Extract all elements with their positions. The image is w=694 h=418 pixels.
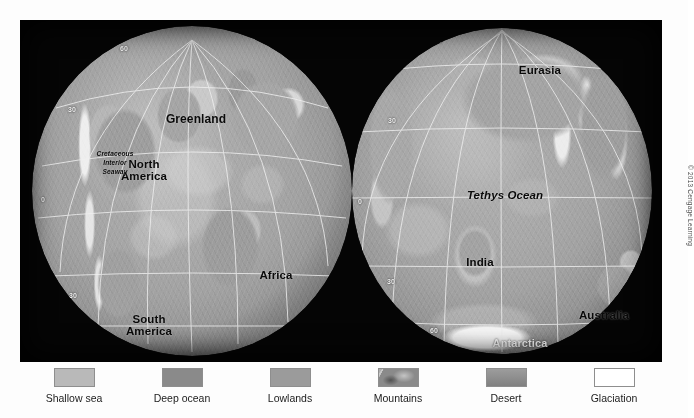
legend: Shallow sea Deep ocean Lowlands Mountain… <box>20 368 668 412</box>
label-cretaceous-interior-seaway-line1: Cretaceous <box>97 150 134 157</box>
legend-label-deep-ocean: Deep ocean <box>154 392 211 404</box>
legend-label-mountains: Mountains <box>374 392 422 404</box>
label-south-america-line1: South <box>132 313 165 325</box>
graticule-tick-30-north-left: 30 <box>68 106 76 113</box>
legend-swatch-shallow-sea <box>54 368 95 387</box>
legend-swatch-desert <box>486 368 527 387</box>
label-australia: Australia <box>579 309 629 321</box>
label-tethys-ocean: Tethys Ocean <box>467 189 543 201</box>
graticule-tick-30-south-left: 30 <box>69 292 77 299</box>
legend-item-mountains: Mountains <box>344 368 452 404</box>
legend-item-deep-ocean: Deep ocean <box>128 368 236 404</box>
label-india: India <box>466 256 493 268</box>
label-north-america-line2: America <box>121 170 167 182</box>
map-panel: 60 30 0 30 Greenland North America Creta… <box>20 20 662 362</box>
label-antarctica: Antarctica <box>493 338 548 350</box>
legend-label-shallow-sea: Shallow sea <box>46 392 103 404</box>
graticule-tick-0-right: 0 <box>358 198 362 205</box>
label-cretaceous-interior-seaway-line2: Interior <box>103 159 127 166</box>
graticule-tick-60-north-right: 60 <box>434 37 442 44</box>
graticule-tick-60-left: 60 <box>120 45 128 52</box>
legend-swatch-mountains <box>378 368 419 387</box>
legend-label-glaciation: Glaciation <box>591 392 638 404</box>
legend-item-desert: Desert <box>452 368 560 404</box>
label-south-america-line2: America <box>126 325 172 337</box>
graticule-tick-30-north-right: 30 <box>388 117 396 124</box>
legend-label-lowlands: Lowlands <box>268 392 312 404</box>
graticule-tick-30-south-right: 30 <box>387 278 395 285</box>
label-cretaceous-interior-seaway-line3: Seaway <box>103 168 128 175</box>
graticule-tick-60-south-right: 60 <box>430 327 438 334</box>
label-africa: Africa <box>259 269 292 281</box>
legend-label-desert: Desert <box>491 392 522 404</box>
globe-western-hemisphere: 60 30 0 30 <box>32 26 352 356</box>
label-greenland: Greenland <box>166 113 226 126</box>
legend-swatch-glaciation <box>594 368 635 387</box>
legend-item-lowlands: Lowlands <box>236 368 344 404</box>
legend-swatch-deep-ocean <box>162 368 203 387</box>
label-eurasia: Eurasia <box>519 64 561 76</box>
copyright-notice: © 2013 Cengage Learning <box>687 165 694 246</box>
legend-item-shallow-sea: Shallow sea <box>20 368 128 404</box>
legend-swatch-lowlands <box>270 368 311 387</box>
graticule-left <box>32 26 352 356</box>
label-north-america-line1: North <box>128 158 159 170</box>
graticule-tick-0-left: 0 <box>41 196 45 203</box>
legend-item-glaciation: Glaciation <box>560 368 668 404</box>
